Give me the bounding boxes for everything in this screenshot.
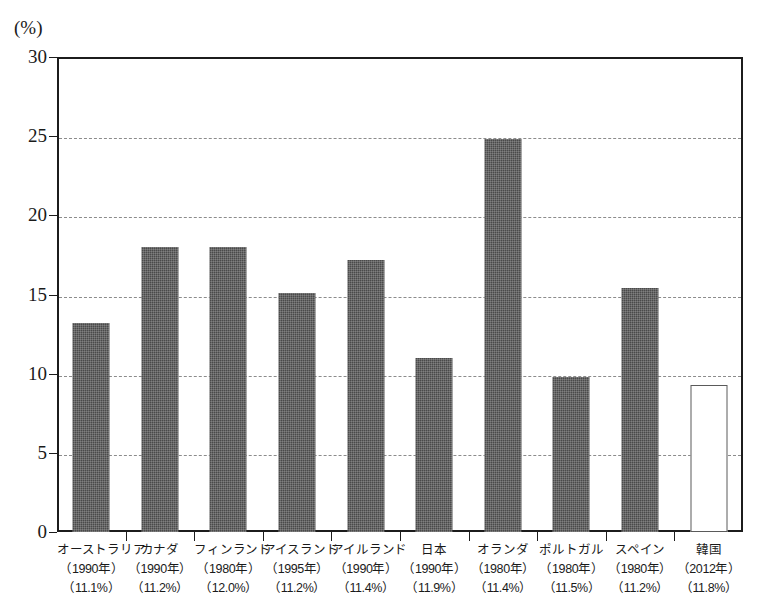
category-rate: （11.1%） xyxy=(57,579,126,598)
bar xyxy=(210,247,247,532)
y-axis-tick-label: 5 xyxy=(38,443,48,462)
x-axis-category-label: ポルトガル（1980年）（11.5%） xyxy=(537,541,606,598)
bar-slot xyxy=(126,57,195,532)
y-axis-tick-label: 20 xyxy=(28,205,47,224)
y-axis-unit-label: (%) xyxy=(14,18,42,37)
x-axis-category-label: 韓国（2012年）（11.8%） xyxy=(674,541,743,598)
bar xyxy=(484,139,521,532)
y-axis-tick-label: 25 xyxy=(28,126,47,145)
x-axis-category-label: スペイン（1980年）（11.2%） xyxy=(606,541,675,598)
category-year: （2012年） xyxy=(674,560,743,579)
x-axis-tick-mark xyxy=(126,532,127,541)
y-axis-tick-label: 10 xyxy=(28,364,47,383)
bar-chart: (%) 051015202530 オーストラリア（1990年）（11.1%）カナ… xyxy=(0,0,762,610)
x-axis-tick-mark xyxy=(469,532,470,541)
category-rate: （11.8%） xyxy=(674,579,743,598)
x-axis-ticks xyxy=(57,532,743,541)
bar-slot xyxy=(469,57,538,532)
y-axis-tick-mark xyxy=(49,295,57,296)
x-axis-tick-mark xyxy=(263,532,264,541)
category-country-name: フィンランド xyxy=(194,541,263,560)
x-axis-tick-mark xyxy=(331,532,332,541)
bar-slot xyxy=(400,57,469,532)
category-year: （1995年） xyxy=(263,560,332,579)
category-country-name: オーストラリア xyxy=(57,541,126,560)
category-country-name: 韓国 xyxy=(674,541,743,560)
y-axis-tick-mark xyxy=(49,374,57,375)
x-axis-tick-mark xyxy=(606,532,607,541)
bar xyxy=(73,323,110,532)
category-country-name: アイスランド xyxy=(263,541,332,560)
category-rate: （11.4%） xyxy=(469,579,538,598)
bar xyxy=(141,247,178,532)
x-axis-category-label: オーストラリア（1990年）（11.1%） xyxy=(57,541,126,598)
x-axis-tick-mark xyxy=(194,532,195,541)
category-country-name: オランダ xyxy=(469,541,538,560)
category-rate: （11.2%） xyxy=(263,579,332,598)
category-rate: （11.2%） xyxy=(606,579,675,598)
category-year: （1990年） xyxy=(331,560,400,579)
category-year: （1980年） xyxy=(469,560,538,579)
category-year: （1990年） xyxy=(57,560,126,579)
y-axis-tick-mark xyxy=(49,215,57,216)
category-country-name: カナダ xyxy=(126,541,195,560)
category-year: （1980年） xyxy=(537,560,606,579)
bar xyxy=(690,385,727,532)
category-year: （1990年） xyxy=(126,560,195,579)
y-axis-tick-mark xyxy=(49,136,57,137)
bar xyxy=(416,358,453,532)
bar-slot xyxy=(331,57,400,532)
bar xyxy=(622,288,659,532)
bar-slot xyxy=(194,57,263,532)
x-axis-tick-mark xyxy=(537,532,538,541)
x-axis-tick-mark xyxy=(674,532,675,541)
bar-slot xyxy=(537,57,606,532)
x-axis-category-label: 日本（1990年）（11.9%） xyxy=(400,541,469,598)
bar-slot xyxy=(674,57,743,532)
bar-slot xyxy=(606,57,675,532)
y-axis-tick-label: 0 xyxy=(38,522,48,541)
category-country-name: アイルランド xyxy=(331,541,400,560)
x-axis-labels: オーストラリア（1990年）（11.1%）カナダ（1990年）（11.2%）フィ… xyxy=(57,541,743,605)
y-axis-tick-mark xyxy=(49,532,57,533)
x-axis-tick-mark xyxy=(400,532,401,541)
category-year: （1990年） xyxy=(400,560,469,579)
category-rate: （12.0%） xyxy=(194,579,263,598)
x-axis-category-label: オランダ（1980年）（11.4%） xyxy=(469,541,538,598)
y-axis-tick-label: 30 xyxy=(28,47,47,66)
category-rate: （11.9%） xyxy=(400,579,469,598)
bar xyxy=(279,293,316,532)
bar-slot xyxy=(263,57,332,532)
category-year: （1980年） xyxy=(194,560,263,579)
category-country-name: スペイン xyxy=(606,541,675,560)
x-axis-category-label: アイルランド（1990年）（11.4%） xyxy=(331,541,400,598)
category-country-name: ポルトガル xyxy=(537,541,606,560)
bar-series xyxy=(57,57,743,532)
bar-slot xyxy=(57,57,126,532)
category-year: （1980年） xyxy=(606,560,675,579)
category-country-name: 日本 xyxy=(400,541,469,560)
category-rate: （11.5%） xyxy=(537,579,606,598)
bar xyxy=(553,377,590,532)
y-axis-tick-mark xyxy=(49,57,57,58)
x-axis-category-label: アイスランド（1995年）（11.2%） xyxy=(263,541,332,598)
y-axis-tick-mark xyxy=(49,453,57,454)
x-axis-category-label: フィンランド（1980年）（12.0%） xyxy=(194,541,263,598)
bar xyxy=(347,260,384,532)
x-axis-category-label: カナダ（1990年）（11.2%） xyxy=(126,541,195,598)
category-rate: （11.4%） xyxy=(331,579,400,598)
y-axis-tick-label: 15 xyxy=(28,285,47,304)
category-rate: （11.2%） xyxy=(126,579,195,598)
